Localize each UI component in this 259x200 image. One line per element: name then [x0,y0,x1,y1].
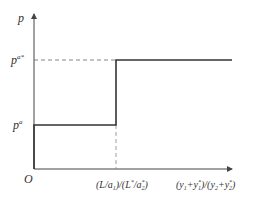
p-high-label: pa* [10,53,25,67]
origin-label: O [24,172,33,186]
y-axis-label: p [17,11,24,25]
x-axis-label: (y1+y1*)/(y2+y2*) [176,179,236,191]
relative-supply-chart: p pa* pa O (L/a1)/(L*/a2*) (y1+y1*)/(y2+… [0,0,259,200]
x-step-label: (L/a1)/(L*/a2*) [96,179,148,191]
p-low-label: pa [12,118,23,132]
step-curve [34,60,232,169]
